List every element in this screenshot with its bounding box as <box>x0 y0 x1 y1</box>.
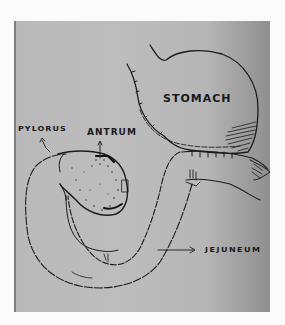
label-antrum: ANTRUM <box>87 127 137 137</box>
anatomy-drawing <box>0 0 285 325</box>
duodenum-outline <box>182 151 268 170</box>
label-stomach: STOMACH <box>163 92 232 104</box>
label-jejuneum: JEJUNEUM <box>205 245 262 254</box>
antrum-outline <box>58 151 128 215</box>
label-pylorus: PYLORUS <box>18 124 67 133</box>
pylorus-arrow <box>42 140 50 152</box>
jejunum-loop <box>26 154 192 288</box>
